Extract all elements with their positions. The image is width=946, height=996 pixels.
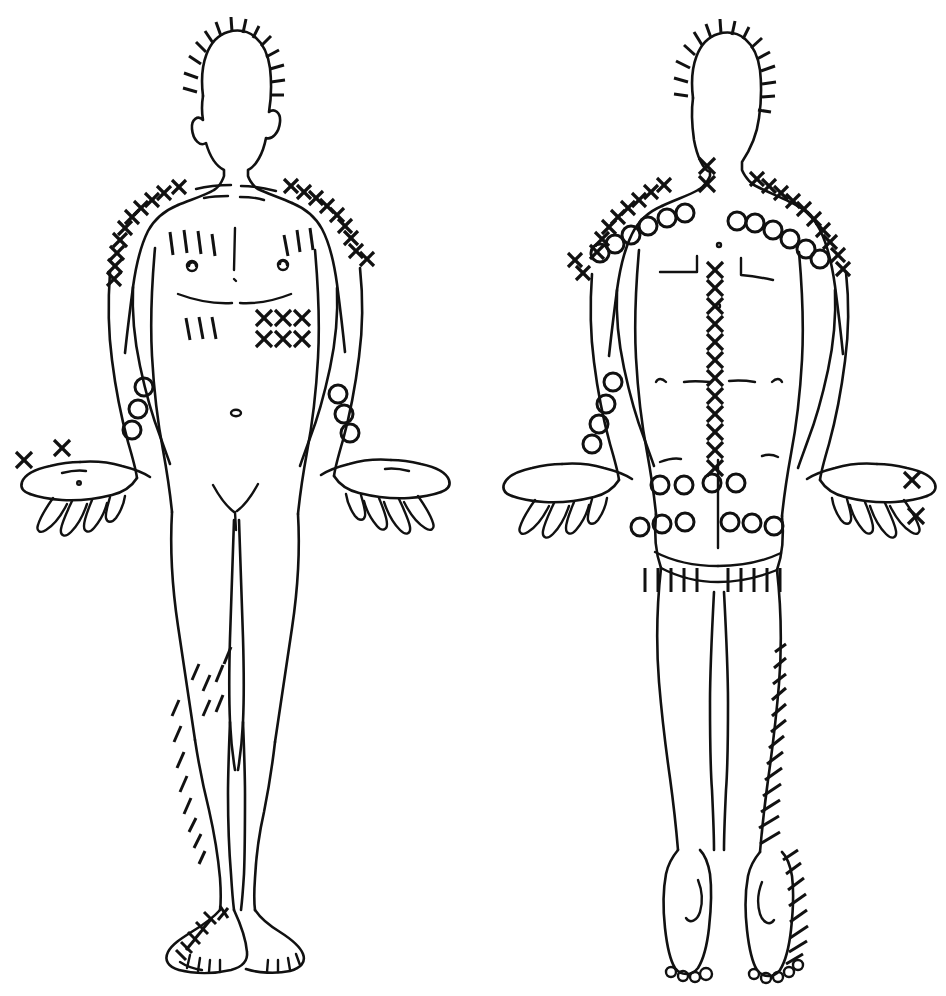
posterior-head-outline <box>662 33 790 206</box>
posterior-feet-outline <box>664 850 803 983</box>
posterior-legs-outline <box>657 568 780 852</box>
posterior-upper-buttock-circles <box>651 474 745 494</box>
anterior-torso-detail <box>178 185 291 416</box>
anterior-right-foot-hatching <box>176 906 228 960</box>
posterior-left-thigh-ticks <box>645 568 697 592</box>
body-chart-page: Body Chart — Anterior and Posterior Inju… <box>0 0 946 996</box>
anterior-lower-right-chest-slashes <box>186 317 216 340</box>
anterior-feet-outline <box>166 910 303 973</box>
posterior-left-buttock-circles <box>631 513 694 536</box>
anterior-right-forearm-circles <box>123 378 153 439</box>
body-chart-canvas <box>0 0 946 996</box>
posterior-left-hand <box>503 464 632 538</box>
anterior-upper-right-chest-slashes <box>170 230 215 256</box>
posterior-left-forearm-circles <box>583 373 622 453</box>
posterior-figure[interactable] <box>503 19 935 983</box>
anterior-scalp-hatch-marks <box>183 17 285 95</box>
posterior-torso-outline <box>609 202 843 516</box>
posterior-spine-cross-column <box>707 262 723 476</box>
anterior-arms-outline <box>109 268 362 478</box>
anterior-right-shoulder-suture-chain <box>284 179 374 266</box>
anterior-legs-outline <box>171 484 299 910</box>
anterior-head-outline <box>178 31 292 205</box>
anterior-right-shin-slashes-upper <box>192 647 231 716</box>
posterior-right-buttock-circles <box>721 513 783 535</box>
anterior-right-hand <box>321 460 450 534</box>
anterior-upper-left-chest-slashes <box>284 228 313 256</box>
anterior-left-abdomen-cross-grid <box>256 310 310 347</box>
anterior-right-shin-slashes-lower <box>172 700 205 864</box>
anterior-figure[interactable] <box>16 17 450 973</box>
posterior-right-heel-hatching <box>783 850 808 964</box>
anterior-left-hand <box>21 462 150 536</box>
